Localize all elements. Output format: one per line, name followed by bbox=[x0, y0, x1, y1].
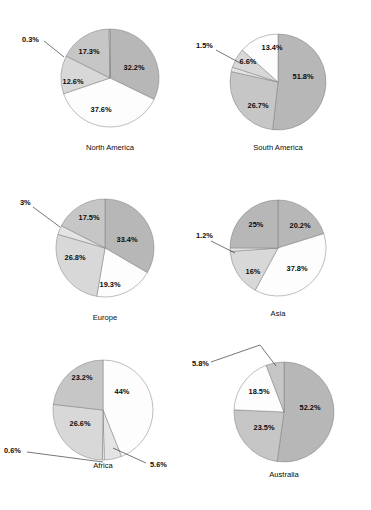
slice-label-australia-1: 23.5% bbox=[254, 423, 275, 432]
slice-label-north-america-1: 37.6% bbox=[91, 105, 112, 114]
pie-chart-europe: 33.4%19.3%26.8%3%17.5%Europe bbox=[20, 198, 154, 322]
chart-title-asia: Asia bbox=[271, 309, 287, 318]
leader-line-south-america-2 bbox=[216, 50, 240, 63]
leader-line-europe-3 bbox=[33, 207, 60, 227]
slice-label-asia-4: 25% bbox=[249, 220, 264, 229]
slice-label-europe-4: 17.5% bbox=[79, 213, 100, 222]
slice-label-asia-0: 20.2% bbox=[290, 221, 311, 230]
pie-slice-africa-4[interactable] bbox=[53, 360, 103, 410]
slice-label-australia-2: 18.5% bbox=[249, 387, 270, 396]
pie-chart-africa: 44%5.6%0.6%26.6%23.2%Africa bbox=[4, 360, 167, 470]
slice-label-europe-2: 26.8% bbox=[65, 253, 86, 262]
callout-label-europe-3: 3% bbox=[20, 198, 31, 207]
slice-label-asia-2: 16% bbox=[246, 267, 261, 276]
slice-label-north-america-0: 32.2% bbox=[124, 63, 145, 72]
slice-label-south-america-1: 26.7% bbox=[248, 101, 269, 110]
pie-slice-australia-0[interactable] bbox=[277, 362, 334, 462]
slice-label-africa-3: 26.6% bbox=[70, 419, 91, 428]
leader-line-north-america-4 bbox=[44, 41, 64, 57]
pie-chart-south-america: 51.8%26.7%1.5%6.6%13.4%South America bbox=[196, 34, 326, 152]
callout-label-asia-3: 1.2% bbox=[196, 231, 213, 240]
slice-label-north-america-2: 12.6% bbox=[63, 77, 84, 86]
pie-chart-australia: 52.2%23.5%18.5%5.8%Australia bbox=[192, 345, 334, 479]
callout-label-south-america-2: 1.5% bbox=[196, 41, 213, 50]
chart-title-south-america: South America bbox=[253, 143, 303, 152]
pie-slice-africa-3[interactable] bbox=[53, 404, 103, 460]
slice-label-asia-1: 37.8% bbox=[287, 264, 308, 273]
slice-label-south-america-4: 13.4% bbox=[262, 43, 283, 52]
pie-slice-australia-1[interactable] bbox=[234, 410, 284, 462]
slice-label-australia-0: 52.2% bbox=[300, 403, 321, 412]
leader-line-australia-3 bbox=[211, 345, 276, 366]
callout-label-north-america-4: 0.3% bbox=[22, 35, 39, 44]
callout-label-africa-1: 5.6% bbox=[150, 460, 167, 469]
slice-label-north-america-3: 17.3% bbox=[79, 47, 100, 56]
chart-title-africa: Africa bbox=[93, 461, 113, 470]
pie-chart-north-america: 32.2%37.6%12.6%17.3%0.3%North America bbox=[22, 29, 159, 152]
slice-label-south-america-0: 51.8% bbox=[293, 72, 314, 81]
pie-chart-grid: 32.2%37.6%12.6%17.3%0.3%North America51.… bbox=[0, 0, 371, 510]
pie-chart-asia: 20.2%37.8%16%1.2%25%Asia bbox=[196, 200, 326, 318]
figure-canvas: 32.2%37.6%12.6%17.3%0.3%North America51.… bbox=[0, 0, 371, 510]
callout-label-australia-3: 5.8% bbox=[192, 359, 209, 368]
slice-label-africa-4: 23.2% bbox=[72, 373, 93, 382]
slice-label-europe-1: 19.3% bbox=[100, 280, 121, 289]
slice-label-africa-0: 44% bbox=[115, 387, 130, 396]
chart-title-north-america: North America bbox=[86, 143, 135, 152]
chart-title-europe: Europe bbox=[93, 313, 118, 322]
slice-label-south-america-3: 6.6% bbox=[240, 57, 257, 66]
chart-title-australia: Australia bbox=[269, 470, 299, 479]
callout-label-africa-2: 0.6% bbox=[4, 446, 21, 455]
slice-label-europe-0: 33.4% bbox=[117, 235, 138, 244]
